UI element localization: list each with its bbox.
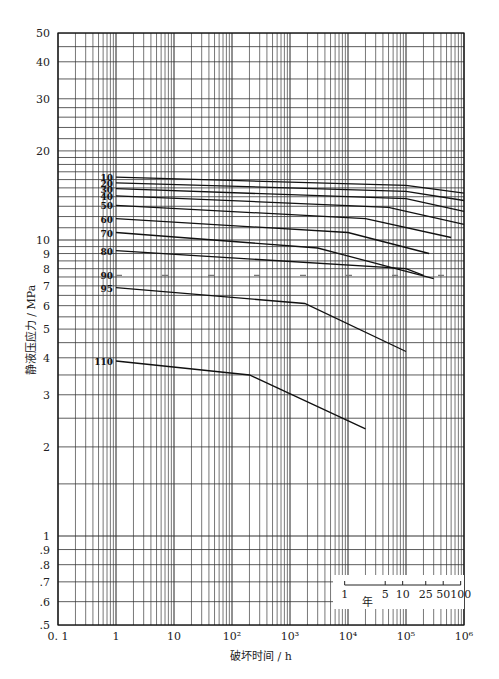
svg-text:10: 10 xyxy=(167,630,181,643)
svg-text:2: 2 xyxy=(43,441,50,454)
svg-text:80: 80 xyxy=(100,247,113,257)
year-tick: 1 xyxy=(341,588,348,601)
svg-text:9: 9 xyxy=(43,248,50,261)
svg-text:1: 1 xyxy=(43,530,50,543)
svg-text:10⁶: 10⁶ xyxy=(455,630,474,643)
svg-text:3: 3 xyxy=(43,389,50,402)
svg-text:.6: .6 xyxy=(40,596,51,609)
svg-text:60: 60 xyxy=(100,215,113,225)
svg-text:10³: 10³ xyxy=(281,630,299,643)
grid xyxy=(58,33,464,625)
svg-text:50: 50 xyxy=(36,27,50,40)
svg-text:6: 6 xyxy=(43,300,50,313)
year-tick: 10 xyxy=(396,588,410,601)
y-axis-label: 静液压应力 / MPa xyxy=(24,284,38,375)
svg-text:0. 1: 0. 1 xyxy=(48,630,69,643)
svg-text:30: 30 xyxy=(36,93,50,106)
year-tick: 5 xyxy=(382,588,389,601)
svg-text:40: 40 xyxy=(36,56,50,69)
svg-text:7: 7 xyxy=(43,280,50,293)
svg-text:10⁵: 10⁵ xyxy=(397,630,415,643)
svg-text:90: 90 xyxy=(100,271,113,281)
svg-text:.8: .8 xyxy=(40,559,51,572)
svg-text:110: 110 xyxy=(94,357,113,367)
svg-text:95: 95 xyxy=(100,284,113,294)
svg-text:10²: 10² xyxy=(223,630,241,643)
stress-rupture-chart: 10203040506070809095110 5040302010987654… xyxy=(0,0,499,679)
svg-text:70: 70 xyxy=(100,229,113,239)
series-95°C xyxy=(116,288,406,352)
year-tick: 25 xyxy=(419,588,433,601)
series-80°C xyxy=(116,251,424,276)
svg-text:10⁴: 10⁴ xyxy=(339,630,358,643)
svg-text:5: 5 xyxy=(43,323,50,336)
svg-text:8: 8 xyxy=(43,263,50,276)
year-tick: 100 xyxy=(450,588,471,601)
svg-text:50: 50 xyxy=(100,201,113,211)
svg-text:4: 4 xyxy=(43,352,50,365)
year-label: 年 xyxy=(362,595,373,609)
svg-text:20: 20 xyxy=(36,145,50,158)
svg-text:1: 1 xyxy=(113,630,120,643)
x-axis-label: 破坏时间 / h xyxy=(230,649,292,663)
svg-text:.9: .9 xyxy=(40,544,51,557)
svg-text:10: 10 xyxy=(36,234,50,247)
series-70°C xyxy=(116,233,434,279)
year-tick: 50 xyxy=(436,588,450,601)
svg-text:.7: .7 xyxy=(40,576,51,589)
years-axis: 15102550100年 xyxy=(333,575,471,609)
series-lines: 10203040506070809095110 xyxy=(94,173,464,429)
